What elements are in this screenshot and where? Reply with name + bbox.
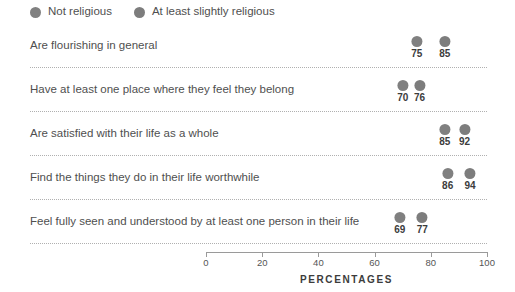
legend-label-not-religious: Not religious bbox=[48, 6, 112, 18]
chart-legend: Not religious At least slightly religiou… bbox=[30, 2, 275, 22]
data-point[interactable]: 77 bbox=[417, 212, 428, 235]
chart-rows: Are flourishing in general7585Have at le… bbox=[0, 24, 515, 244]
chart-x-axis: 020406080100 PERCENTAGES bbox=[206, 252, 487, 292]
chart-row: Find the things they do in their life wo… bbox=[0, 156, 515, 200]
data-point-dot bbox=[397, 80, 408, 91]
data-point-value: 69 bbox=[394, 225, 405, 235]
legend-item-not-religious: Not religious bbox=[30, 6, 112, 18]
data-point-dot bbox=[414, 80, 425, 91]
data-point[interactable]: 76 bbox=[414, 80, 425, 103]
data-point[interactable]: 70 bbox=[397, 80, 408, 103]
legend-dot-not-religious bbox=[30, 7, 41, 18]
legend-dot-at-least-slightly-religious bbox=[134, 7, 145, 18]
data-point[interactable]: 94 bbox=[465, 168, 476, 191]
data-point-dot bbox=[439, 124, 450, 135]
data-point[interactable]: 86 bbox=[442, 168, 453, 191]
x-axis-tick-label: 0 bbox=[203, 258, 208, 268]
x-axis-tick-label: 40 bbox=[313, 258, 324, 268]
data-point-value: 85 bbox=[439, 137, 450, 147]
data-point-dot bbox=[394, 212, 405, 223]
x-axis-tick-label: 60 bbox=[369, 258, 380, 268]
x-axis-tick-label: 100 bbox=[479, 258, 495, 268]
data-point-value: 70 bbox=[397, 93, 408, 103]
data-point[interactable]: 85 bbox=[439, 36, 450, 59]
data-point-dot bbox=[465, 168, 476, 179]
data-point-dot bbox=[442, 168, 453, 179]
data-point-dot bbox=[459, 124, 470, 135]
row-plot: 8694 bbox=[206, 156, 487, 200]
x-axis-tick-label: 20 bbox=[257, 258, 268, 268]
data-point[interactable]: 69 bbox=[394, 212, 405, 235]
chart-row: Have at least one place where they feel … bbox=[0, 68, 515, 112]
data-point-dot bbox=[411, 36, 422, 47]
x-axis-line bbox=[206, 252, 487, 253]
row-label: Are satisfied with their life as a whole bbox=[30, 127, 219, 140]
chart-row: Feel fully seen and understood by at lea… bbox=[0, 200, 515, 244]
data-point-dot bbox=[439, 36, 450, 47]
data-point-value: 76 bbox=[414, 93, 425, 103]
chart-row: Are satisfied with their life as a whole… bbox=[0, 112, 515, 156]
data-point-value: 75 bbox=[411, 49, 422, 59]
legend-item-at-least-slightly-religious: At least slightly religious bbox=[134, 6, 275, 18]
x-axis-tick-label: 80 bbox=[426, 258, 437, 268]
row-plot: 8592 bbox=[206, 112, 487, 156]
data-point-value: 85 bbox=[439, 49, 450, 59]
row-divider bbox=[30, 243, 487, 244]
data-point-dot bbox=[417, 212, 428, 223]
row-label: Are flourishing in general bbox=[30, 39, 157, 52]
data-point[interactable]: 85 bbox=[439, 124, 450, 147]
legend-label-at-least-slightly-religious: At least slightly religious bbox=[152, 6, 275, 18]
data-point[interactable]: 92 bbox=[459, 124, 470, 147]
data-point[interactable]: 75 bbox=[411, 36, 422, 59]
row-plot: 7076 bbox=[206, 68, 487, 112]
data-point-value: 77 bbox=[417, 225, 428, 235]
data-point-value: 94 bbox=[465, 181, 476, 191]
chart-row: Are flourishing in general7585 bbox=[0, 24, 515, 68]
x-axis-title: PERCENTAGES bbox=[206, 274, 487, 285]
row-plot: 6977 bbox=[206, 200, 487, 244]
data-point-value: 86 bbox=[442, 181, 453, 191]
row-plot: 7585 bbox=[206, 24, 487, 68]
data-point-value: 92 bbox=[459, 137, 470, 147]
